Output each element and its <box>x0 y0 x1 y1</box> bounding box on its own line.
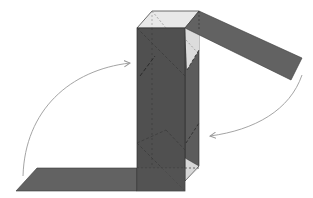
bottom-strip <box>16 168 137 191</box>
right-curved-arrow <box>210 75 302 136</box>
top-strip <box>185 11 302 80</box>
box-right-face <box>185 12 199 181</box>
left-curved-arrow <box>23 63 130 176</box>
folding-diagram <box>0 0 313 198</box>
